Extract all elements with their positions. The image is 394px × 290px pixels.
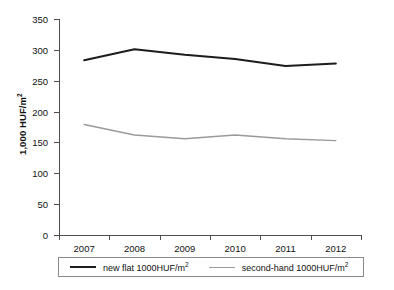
legend-swatch-second-hand-icon — [209, 267, 235, 268]
y-tick-label: 200 — [14, 106, 48, 117]
y-tick-label: 100 — [14, 168, 48, 179]
y-tick-mark — [54, 81, 59, 82]
x-tick-label: 2010 — [208, 243, 262, 254]
y-axis-line — [59, 19, 60, 236]
x-tick-mark — [311, 235, 312, 240]
y-tick-mark — [54, 173, 59, 174]
x-tick-label: 2012 — [309, 243, 363, 254]
x-tick-label: 2008 — [108, 243, 162, 254]
y-tick-label: 250 — [14, 75, 48, 86]
legend-swatch-new-flat-icon — [70, 266, 96, 268]
legend-item-new-flat: new flat 1000HUF/m2 — [70, 261, 189, 273]
y-tick-label: 50 — [14, 199, 48, 210]
chart-legend: new flat 1000HUF/m2 second-hand 1000HUF/… — [58, 257, 364, 277]
legend-item-second-hand: second-hand 1000HUF/m2 — [209, 261, 349, 273]
y-tick-mark — [54, 112, 59, 113]
x-tick-label: 2011 — [259, 243, 313, 254]
x-tick-mark — [109, 235, 110, 240]
y-tick-label: 0 — [14, 230, 48, 241]
series-second-hand-line — [84, 125, 336, 141]
y-tick-label: 300 — [14, 44, 48, 55]
y-tick-mark — [54, 19, 59, 20]
x-tick-label: 2007 — [57, 243, 111, 254]
x-tick-mark — [361, 235, 362, 240]
legend-label-second-hand: second-hand 1000HUF/m2 — [242, 261, 349, 273]
x-tick-label: 2009 — [158, 243, 212, 254]
y-tick-mark — [54, 50, 59, 51]
legend-label-new-flat: new flat 1000HUF/m2 — [103, 261, 189, 273]
x-tick-mark — [260, 235, 261, 240]
x-tick-mark — [160, 235, 161, 240]
y-tick-mark — [54, 142, 59, 143]
series-new-flat-line — [84, 49, 336, 66]
y-tick-mark — [54, 204, 59, 205]
x-tick-mark — [59, 235, 60, 240]
line-chart: 1,000 HUF/m2 050100150200250300350 20072… — [0, 0, 394, 290]
y-tick-label: 150 — [14, 137, 48, 148]
y-tick-label: 350 — [14, 14, 48, 25]
x-tick-mark — [210, 235, 211, 240]
